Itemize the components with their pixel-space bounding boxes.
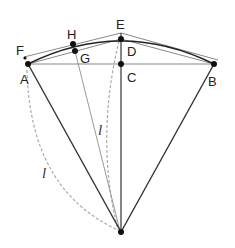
label-E: E (116, 17, 125, 32)
geometry-diagram: A B C D E F G H l l (0, 0, 235, 248)
dashed-arc-left (27, 70, 118, 230)
point-C (118, 61, 124, 67)
point-D (118, 36, 124, 42)
label-A: A (20, 72, 29, 87)
label-C: C (127, 70, 136, 85)
side-BO (121, 64, 214, 232)
label-D: D (127, 44, 136, 59)
label-G: G (80, 51, 90, 66)
point-A (25, 61, 31, 67)
length-label-l-center: l (98, 122, 102, 138)
point-O (118, 229, 124, 235)
point-B (211, 61, 217, 67)
label-F: F (16, 43, 24, 58)
length-label-l-left: l (42, 165, 46, 181)
label-H: H (67, 27, 76, 42)
line-G-O (75, 51, 120, 231)
point-G (72, 48, 78, 54)
label-B: B (208, 74, 217, 89)
